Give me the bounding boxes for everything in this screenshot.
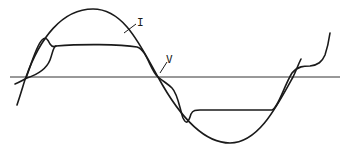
waveform-diagram: I V (0, 0, 351, 152)
label-voltage-v: V (166, 53, 173, 66)
voltage-waveform-v (15, 33, 330, 122)
label-current-i: I (137, 16, 144, 29)
current-waveform-i (17, 9, 301, 143)
